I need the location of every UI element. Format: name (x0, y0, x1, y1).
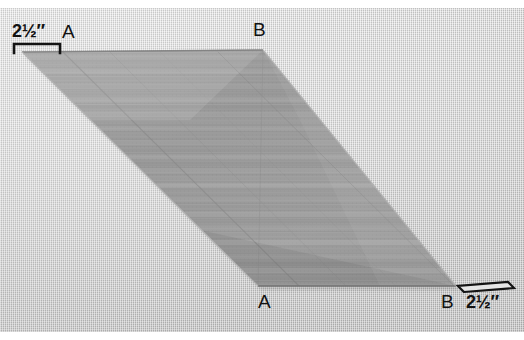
measurement-label-bottom-right: 2½″ (466, 293, 499, 311)
measure-bracket-bottom-right (458, 282, 514, 292)
screenshot-root: 2½″ A B A B 2½″ (0, 0, 524, 340)
measurement-bottom-right-value: 2½″ (466, 292, 499, 312)
measurement-label-top-left: 2½″ (12, 22, 45, 40)
vertex-label-b-bottom: B (441, 292, 454, 311)
fabric-illustration (0, 0, 524, 340)
frame-strip-bottom (0, 332, 524, 340)
fabric-panel (0, 48, 524, 289)
vertex-label-b-top: B (253, 20, 266, 39)
vertex-label-a-top: A (62, 22, 75, 41)
measurement-top-left-value: 2½″ (12, 21, 45, 41)
vertex-label-a-bottom: A (258, 292, 271, 311)
frame-strip-top (0, 0, 524, 8)
